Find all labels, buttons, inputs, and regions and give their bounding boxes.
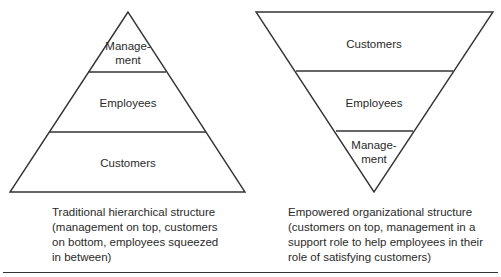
management-line-2: ment: [344, 152, 404, 166]
pyramid-management-label: Manage- ment: [98, 39, 158, 67]
management-line-1: Manage-: [98, 39, 158, 53]
caption-line: Traditional hierarchical structure: [52, 205, 218, 220]
inverted-customers-label: Customers: [334, 37, 414, 51]
caption-line: in between): [52, 250, 218, 265]
management-line-1: Manage-: [344, 138, 404, 152]
empowered-caption: Empowered organizational structure (cust…: [288, 205, 483, 265]
caption-line: (customers on top, management in a: [288, 220, 483, 235]
management-line-2: ment: [98, 53, 158, 67]
caption-line: support role to help employees in their: [288, 235, 483, 250]
caption-line: role of satisfying customers): [288, 250, 483, 265]
inverted-management-label: Manage- ment: [344, 138, 404, 166]
caption-line: on bottom, employees squeezed: [52, 235, 218, 250]
traditional-caption: Traditional hierarchical structure (mana…: [52, 205, 218, 265]
bottom-rule: [3, 272, 498, 273]
caption-line: Empowered organizational structure: [288, 205, 483, 220]
caption-line: (management on top, customers: [52, 220, 218, 235]
pyramid-customers-label: Customers: [88, 156, 168, 170]
pyramid-employees-label: Employees: [88, 96, 168, 110]
inverted-employees-label: Employees: [334, 96, 414, 110]
